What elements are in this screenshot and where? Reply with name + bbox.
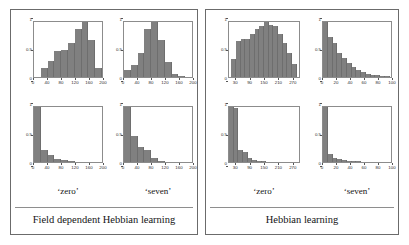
x-tick-label: 60 bbox=[362, 81, 367, 86]
x-axis: 020406080100 bbox=[322, 163, 392, 175]
x-tick-label: 30 bbox=[233, 81, 238, 86]
x-tick-label: 210 bbox=[275, 81, 282, 86]
histogram-bar bbox=[151, 22, 158, 77]
panel-group-field-dependent-hebbian: 1 0.5 0 04080120160200 1 0.5 0 040801201… bbox=[10, 9, 198, 235]
histogram-bar bbox=[54, 159, 61, 162]
x-tick-label: 120 bbox=[161, 166, 168, 171]
histogram-bar bbox=[75, 29, 82, 77]
histogram-bar bbox=[138, 147, 145, 162]
histogram-bar bbox=[61, 50, 68, 78]
x-tick-label: 100 bbox=[388, 166, 395, 171]
histogram-bar bbox=[82, 22, 89, 77]
histogram-bar bbox=[124, 107, 131, 162]
x-tick-label: 40 bbox=[348, 81, 353, 86]
x-tick-label: 40 bbox=[45, 166, 50, 171]
y-axis: 1 0.5 0 bbox=[309, 18, 322, 81]
histogram-bar bbox=[34, 107, 41, 162]
histogram-panel-right-bottom-left: 1 0.5 0 3090150210270 bbox=[228, 106, 300, 163]
x-tick-label: 40 bbox=[135, 81, 140, 86]
bars-container bbox=[34, 107, 102, 162]
y-tick bbox=[320, 103, 322, 104]
y-tick bbox=[121, 135, 123, 136]
y-tick bbox=[226, 50, 228, 51]
histogram-bar bbox=[54, 51, 61, 77]
x-axis: 04080120160200 bbox=[33, 163, 103, 175]
y-axis: 1 0.5 0 bbox=[215, 18, 228, 81]
x-tick-label: 0 bbox=[32, 166, 34, 171]
y-tick bbox=[226, 18, 228, 19]
y-tick bbox=[226, 103, 228, 104]
y-tick bbox=[121, 103, 123, 104]
x-tick-label: 0 bbox=[122, 81, 124, 86]
histogram-bar bbox=[95, 68, 102, 77]
x-tick-label: 270 bbox=[289, 166, 296, 171]
plot-area bbox=[33, 106, 103, 163]
y-axis: 1 0.5 0 bbox=[20, 18, 33, 81]
y-tick bbox=[121, 50, 123, 51]
plot-area bbox=[123, 106, 193, 163]
caption-divider bbox=[210, 207, 394, 208]
x-tick-label: 100 bbox=[388, 81, 395, 86]
x-tick-label: 120 bbox=[71, 166, 78, 171]
y-tick bbox=[31, 50, 33, 51]
histogram-bar bbox=[124, 70, 131, 77]
x-tick-label: 80 bbox=[149, 166, 154, 171]
histogram-bar bbox=[262, 161, 267, 162]
histogram-bar bbox=[165, 62, 172, 77]
histogram-panel-left-top-right: 1 0.5 0 04080120160200 bbox=[123, 21, 193, 78]
x-tick-label: 210 bbox=[275, 166, 282, 171]
y-tick bbox=[320, 135, 322, 136]
histogram-bar bbox=[151, 158, 158, 162]
x-tick-label: 30 bbox=[233, 166, 238, 171]
x-tick-label: 120 bbox=[161, 81, 168, 86]
bars-container bbox=[323, 22, 391, 77]
x-axis: 020406080100 bbox=[322, 78, 392, 90]
x-tick-label: 40 bbox=[135, 166, 140, 171]
x-tick-label: 0 bbox=[32, 81, 34, 86]
y-tick bbox=[121, 18, 123, 19]
x-tick-label: 80 bbox=[59, 81, 64, 86]
histogram-bar bbox=[172, 74, 179, 77]
y-tick bbox=[320, 50, 322, 51]
histogram-bar bbox=[41, 150, 48, 162]
histogram-bar bbox=[158, 40, 165, 77]
y-axis: 1 0.5 0 bbox=[20, 103, 33, 166]
box-caption-hebbian: Hebbian learning bbox=[206, 214, 398, 226]
x-tick-label: 200 bbox=[99, 166, 106, 171]
histogram-bar bbox=[385, 76, 390, 77]
y-tick bbox=[31, 135, 33, 136]
bars-container bbox=[229, 107, 299, 162]
plot-area bbox=[228, 21, 300, 78]
plot-area bbox=[322, 106, 392, 163]
histogram-bar bbox=[292, 64, 297, 77]
y-tick bbox=[31, 18, 33, 19]
x-axis: 04080120160200 bbox=[33, 78, 103, 90]
x-tick-label: 0 bbox=[321, 81, 323, 86]
histogram-bar bbox=[88, 40, 95, 77]
histogram-bar bbox=[178, 76, 185, 77]
histogram-panel-right-top-left: 1 0.5 0 3090150210270 bbox=[228, 21, 300, 78]
x-tick-label: 200 bbox=[99, 81, 106, 86]
x-tick-label: 80 bbox=[59, 166, 64, 171]
column-label-seven: ‘seven’ bbox=[123, 186, 193, 196]
x-axis: 3090150210270 bbox=[228, 163, 300, 175]
x-tick-label: 90 bbox=[247, 166, 252, 171]
bars-container bbox=[34, 22, 102, 77]
histogram-bar bbox=[41, 68, 48, 77]
bars-container bbox=[124, 107, 192, 162]
histogram-bar bbox=[144, 150, 151, 162]
plot-area bbox=[228, 106, 300, 163]
histogram-bar bbox=[131, 136, 138, 162]
y-tick bbox=[320, 18, 322, 19]
x-tick-label: 200 bbox=[189, 81, 196, 86]
x-tick-label: 20 bbox=[334, 166, 339, 171]
x-tick-label: 80 bbox=[376, 81, 381, 86]
x-tick-label: 150 bbox=[260, 166, 267, 171]
histogram-panel-right-top-right: 1 0.5 0 020406080100 bbox=[322, 21, 392, 78]
histogram-panel-left-bottom-right: 1 0.5 0 04080120160200 bbox=[123, 106, 193, 163]
y-axis: 1 0.5 0 bbox=[215, 103, 228, 166]
y-tick bbox=[226, 135, 228, 136]
figure-root: 1 0.5 0 04080120160200 1 0.5 0 040801201… bbox=[0, 0, 409, 245]
panel-group-hebbian: 1 0.5 0 3090150210270 1 0.5 0 0204060801… bbox=[205, 9, 399, 235]
x-axis: 04080120160200 bbox=[123, 78, 193, 90]
